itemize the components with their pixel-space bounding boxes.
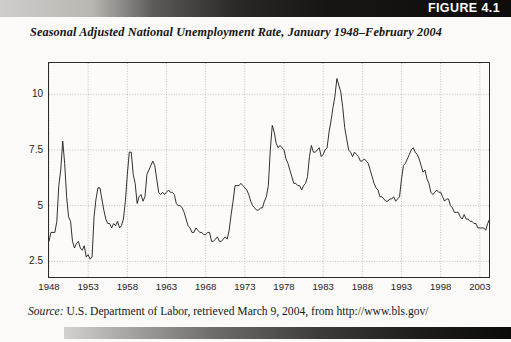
source-note: Source: U.S. Department of Labor, retrie… — [28, 305, 429, 318]
y-tick-2.5: 2.5 — [5, 255, 43, 266]
figure-number-label: FIGURE 4.1 — [428, 1, 500, 16]
unemployment-data-line — [49, 79, 489, 260]
source-label: Source: — [28, 305, 64, 318]
chart-title: Seasonal Adjusted National Unemployment … — [30, 25, 442, 40]
x-tick-2003: 2003 — [457, 281, 503, 292]
y-tick-5: 5 — [5, 200, 43, 211]
figure-container: FIGURE 4.1 Seasonal Adjusted National Un… — [0, 0, 511, 342]
y-tick-10: 10 — [5, 88, 43, 99]
plot-area — [48, 62, 490, 278]
page-edge — [0, 322, 64, 342]
footer-bar — [62, 327, 511, 339]
unemployment-line-chart — [49, 63, 489, 277]
source-text: U.S. Department of Labor, retrieved Marc… — [64, 305, 429, 318]
figure-banner: FIGURE 4.1 — [0, 0, 511, 17]
y-tick-7.5: 7.5 — [5, 144, 43, 155]
